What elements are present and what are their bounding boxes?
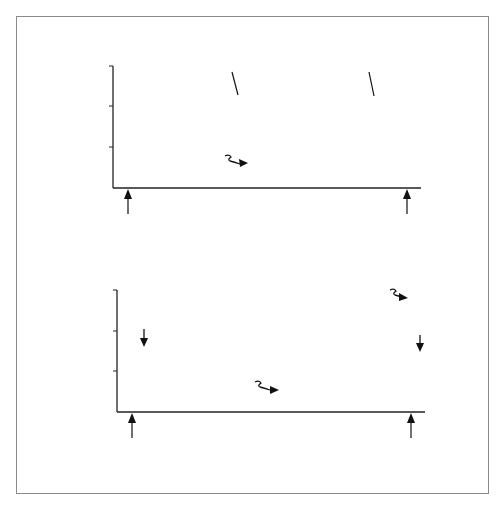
fsh-squiggle-arrow-icon <box>225 155 248 167</box>
hormone-figure <box>0 0 500 509</box>
second-wave-pointer <box>369 72 374 96</box>
bottom-chart <box>113 289 425 438</box>
lh-squiggle-arrow-icon <box>390 289 408 301</box>
bottom-estrus-right-arrow-icon <box>407 413 415 438</box>
top-estrus-left-arrow-icon <box>124 189 132 214</box>
bottom-estrus-left-arrow-icon <box>128 413 136 438</box>
second-ovulation-arrow-icon <box>416 335 424 352</box>
first-wave-pointer <box>232 72 238 95</box>
top-estrus-right-arrow-icon <box>403 189 411 214</box>
estrogen-squiggle-arrow-icon <box>255 381 279 394</box>
ovulation-arrow-icon <box>140 329 148 347</box>
top-chart <box>109 66 421 214</box>
